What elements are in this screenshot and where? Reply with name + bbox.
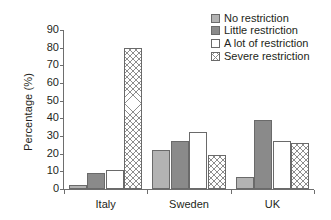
- y-tick-label: 30: [33, 130, 59, 141]
- legend-swatch: [211, 52, 220, 61]
- y-tick-label: 90: [33, 24, 59, 35]
- bar: [106, 170, 124, 189]
- bar: [87, 173, 105, 189]
- bar: [273, 141, 291, 189]
- legend-item: A lot of restriction: [211, 37, 310, 50]
- legend-item: No restriction: [211, 12, 310, 25]
- x-category-label: Sweden: [149, 198, 229, 210]
- x-tick-mark: [314, 190, 315, 194]
- y-tick-label: 10: [33, 165, 59, 176]
- legend-item: Severe restriction: [211, 50, 310, 63]
- x-axis-line: [63, 189, 314, 190]
- bar: [152, 150, 170, 189]
- legend-label: Little restriction: [224, 25, 298, 36]
- bar: [69, 185, 87, 189]
- x-tick-mark: [64, 190, 65, 194]
- bar: [236, 177, 254, 189]
- y-tick-label: 70: [33, 59, 59, 70]
- y-tick-label: 20: [33, 148, 59, 159]
- bar-chart: Percentage (%) 0102030405060708090 Italy…: [0, 0, 331, 220]
- legend-swatch: [211, 39, 220, 48]
- bar: [124, 48, 142, 189]
- bar: [189, 132, 207, 189]
- y-tick-label: 80: [33, 42, 59, 53]
- legend-swatch: [211, 26, 220, 35]
- legend-label: No restriction: [224, 13, 289, 24]
- legend-swatch: [211, 14, 220, 23]
- chart-legend: No restrictionLittle restrictionA lot of…: [211, 12, 310, 62]
- x-category-label: UK: [232, 198, 312, 210]
- y-tick-label: 50: [33, 95, 59, 106]
- bar: [291, 143, 309, 189]
- bar: [208, 155, 226, 189]
- y-tick-label: 40: [33, 112, 59, 123]
- y-tick-label: 0: [33, 183, 59, 194]
- x-tick-mark: [147, 190, 148, 194]
- bar: [254, 120, 272, 189]
- x-category-label: Italy: [66, 198, 146, 210]
- bar: [171, 141, 189, 189]
- x-tick-mark: [231, 190, 232, 194]
- y-tick-label: 60: [33, 77, 59, 88]
- legend-label: Severe restriction: [224, 51, 310, 62]
- legend-label: A lot of restriction: [224, 38, 308, 49]
- legend-item: Little restriction: [211, 25, 310, 38]
